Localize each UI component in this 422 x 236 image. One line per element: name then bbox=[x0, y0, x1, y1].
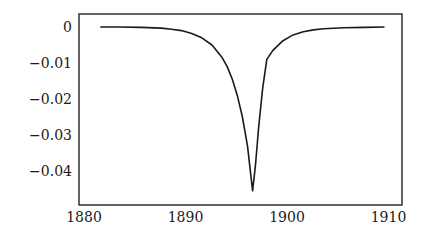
x-tick-label: 1910 bbox=[371, 209, 407, 225]
x-tick-label: 1890 bbox=[168, 209, 204, 225]
line-chart: 0−0.01−0.02−0.03−0.04 1880189019001910 bbox=[0, 0, 422, 236]
y-tick-label: −0.03 bbox=[29, 127, 72, 143]
data-curve bbox=[100, 27, 384, 191]
x-tick-label: 1900 bbox=[269, 209, 305, 225]
y-axis-ticks: 0−0.01−0.02−0.03−0.04 bbox=[29, 19, 72, 179]
y-tick-label: −0.04 bbox=[29, 163, 72, 179]
x-axis-ticks: 1880189019001910 bbox=[66, 209, 406, 225]
x-tick-label: 1880 bbox=[66, 209, 102, 225]
y-tick-label: −0.01 bbox=[29, 55, 72, 71]
y-tick-label: 0 bbox=[63, 19, 72, 35]
y-tick-label: −0.02 bbox=[29, 91, 72, 107]
